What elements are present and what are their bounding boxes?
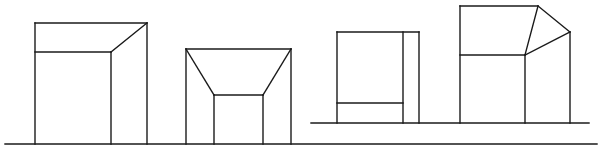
figure-4-folded-box <box>460 6 570 123</box>
figure-2-trapezoid-opening <box>186 49 291 144</box>
figure-4-edge <box>525 6 538 55</box>
figure-1-edge <box>111 23 147 52</box>
figure-4-edge <box>538 6 570 32</box>
figure-4-edge <box>525 32 570 55</box>
figure-2-edge <box>186 49 214 95</box>
diagram-canvas <box>0 0 600 151</box>
ground-lines <box>5 123 597 144</box>
figure-1-open-box-left <box>35 23 147 144</box>
figure-2-edge <box>263 49 291 95</box>
perspective-figures-drawing <box>0 0 600 151</box>
figure-3-panel-box <box>337 32 419 123</box>
